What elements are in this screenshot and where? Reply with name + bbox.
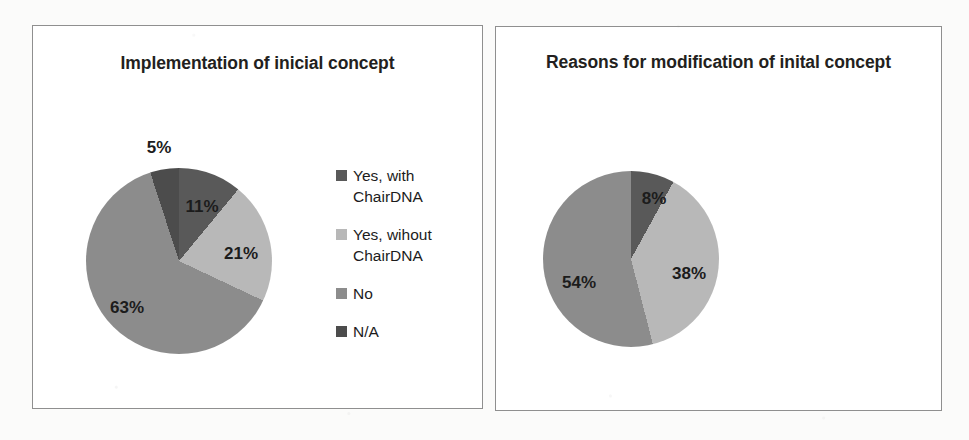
- pie-slice-label: 54%: [562, 273, 596, 293]
- chart-panel-reasons: Reasons for modification of inital conce…: [495, 26, 942, 411]
- legend-swatch-icon: [336, 170, 347, 181]
- legend-swatch-icon: [336, 229, 347, 240]
- legend-item[interactable]: No: [336, 283, 473, 304]
- legend-item-label: Yes, with ChairDNA: [353, 165, 473, 207]
- legend-swatch-icon: [336, 326, 347, 337]
- pie-slice-label: 11%: [185, 197, 218, 217]
- pie-slice-label: 8%: [642, 189, 667, 209]
- pie-slice-label: 21%: [224, 244, 258, 264]
- chart-panel-implementation: Implementation of inicial concept 11%21%…: [32, 25, 483, 409]
- pie-slice-label: 63%: [110, 298, 144, 318]
- legend-item-label: Yes, wihout ChairDNA: [353, 224, 473, 266]
- legend-item-label: No: [353, 283, 373, 304]
- legend-item[interactable]: Yes, wihout ChairDNA: [336, 224, 473, 266]
- legend-swatch-icon: [336, 288, 347, 299]
- legend-item-label: N/A: [353, 321, 379, 342]
- pie-graphic-reasons: [543, 171, 719, 347]
- pie-chart-reasons: 8%38%54%: [496, 27, 941, 410]
- legend-item[interactable]: N/A: [336, 321, 473, 342]
- legend-implementation: Yes, with ChairDNAYes, wihout ChairDNANo…: [336, 165, 473, 359]
- pie-slice-label: 38%: [672, 264, 706, 284]
- legend-item[interactable]: Yes, with ChairDNA: [336, 165, 473, 207]
- pie-slice-label: 5%: [147, 138, 172, 158]
